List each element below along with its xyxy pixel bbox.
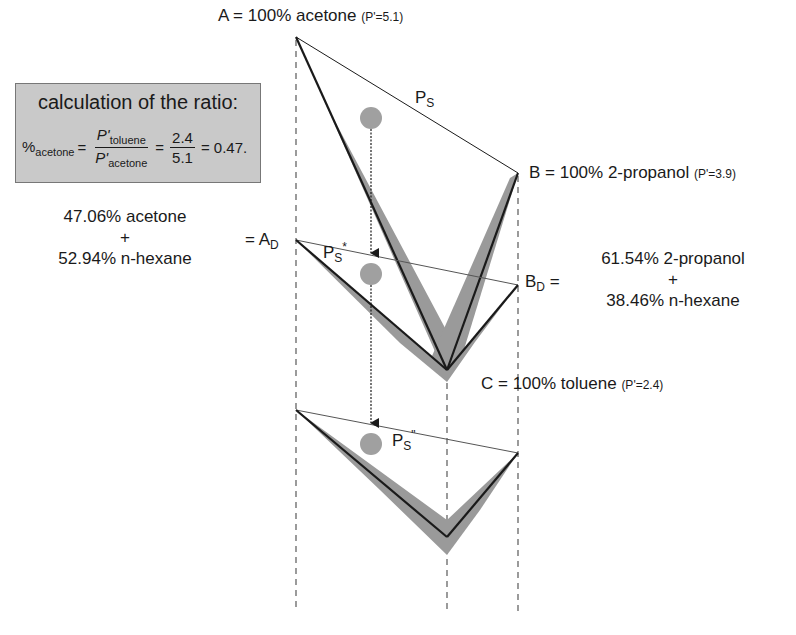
mixture-AD-sub: D <box>270 238 279 252</box>
circle-ps-star <box>360 263 382 285</box>
mixture-AD-line2: 52.94% n-hexane <box>30 248 220 269</box>
vertex-A-text: A = 100% acetone <box>218 6 356 25</box>
mixture-BD-line2: 38.46% n-hexane <box>578 290 768 311</box>
value-fraction: 2.4 5.1 <box>170 129 195 166</box>
solvent-circles <box>360 107 382 455</box>
ps-dstar-main: P <box>392 431 403 450</box>
mixture-AD-prefix: = A <box>245 230 270 249</box>
ps-star-sup: * <box>342 240 347 254</box>
circle-ps <box>360 107 382 129</box>
mixture-AD-composition: 47.06% acetone + 52.94% n-hexane <box>30 206 220 269</box>
mixture-BD-plus: + <box>578 269 768 290</box>
denominator-value: 5.1 <box>170 148 195 166</box>
vertex-C-text: C = 100% toluene <box>481 374 617 393</box>
lhs-subscript: acetone <box>35 146 74 158</box>
mixture-BD-sub: D <box>536 280 545 294</box>
ps-main: P <box>415 88 426 107</box>
vertex-B-text: B = 100% 2-propanol <box>529 163 689 182</box>
label-ps-dstar: PS" <box>392 428 416 453</box>
vertex-label-C: C = 100% toluene (P'=2.4) <box>481 374 663 394</box>
mixture-AD-label: = AD <box>245 230 279 252</box>
vertex-label-B: B = 100% 2-propanol (P'=3.9) <box>529 163 736 183</box>
ratio-result: = 0.47. <box>201 139 247 156</box>
label-ps: PS <box>415 88 434 110</box>
label-ps-star: PS* <box>323 240 347 265</box>
ps-dstar-sup: " <box>411 428 415 442</box>
vertex-A-polarity: (P'=5.1) <box>361 10 403 24</box>
triangle-upper <box>296 37 518 370</box>
lhs: %acetone <box>22 138 75 158</box>
circle-ps-dstar <box>360 433 382 455</box>
mixture-BD-composition: 61.54% 2-propanol + 38.46% n-hexane <box>578 248 768 311</box>
calculation-title: calculation of the ratio: <box>16 91 260 114</box>
ps-sub: S <box>426 96 434 110</box>
mixture-AD-line1: 47.06% acetone <box>30 206 220 227</box>
polarity-fraction: P'toluene P'acetone <box>93 126 149 169</box>
line-B-C <box>447 173 518 370</box>
line-A-B <box>296 37 518 173</box>
ps-star-main: P <box>323 243 334 262</box>
line-lower-right <box>447 453 518 537</box>
percent-sign: % <box>22 138 35 155</box>
numerator-value: 2.4 <box>170 129 195 148</box>
denominator-var: P' <box>95 149 108 166</box>
mixture-BD-line1: 61.54% 2-propanol <box>578 248 768 269</box>
numerator-var: P' <box>97 126 110 143</box>
mixture-BD-prefix: B <box>525 272 536 291</box>
mixture-AD-plus: + <box>30 227 220 248</box>
equals-2: = <box>155 139 164 156</box>
ratio-equation: %acetone = P'toluene P'acetone = 2.4 5.1… <box>22 126 247 169</box>
vertex-C-polarity: (P'=2.4) <box>621 378 663 392</box>
calculation-box: calculation of the ratio: %acetone = P't… <box>15 83 261 183</box>
line-lower-left <box>296 410 447 537</box>
vertex-B-polarity: (P'=3.9) <box>694 167 736 181</box>
equals-1: = <box>78 139 87 156</box>
mixture-BD-label: BD = <box>525 272 560 294</box>
mixture-BD-suffix: = <box>545 272 560 291</box>
numerator-sub: toluene <box>110 134 146 146</box>
denominator-sub: acetone <box>108 157 147 169</box>
vertex-label-A: A = 100% acetone (P'=5.1) <box>218 6 403 26</box>
